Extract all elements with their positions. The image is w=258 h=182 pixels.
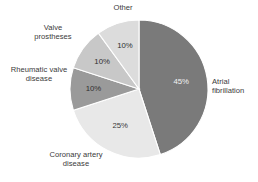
slice-value-rheumatic-valve-disease: 10% — [86, 84, 102, 93]
slice-label-other: Other — [99, 3, 147, 12]
slice-label-valve-prostheses: Valve prostheses — [26, 23, 80, 42]
slice-label-rheumatic-valve-disease: Rheumatic valve disease — [2, 65, 76, 84]
slice-value-other: 10% — [117, 41, 133, 50]
slice-value-valve-prostheses: 10% — [94, 57, 110, 66]
slice-label-atrial-fibrillation: Atrial fibrillation — [212, 77, 258, 96]
pie-chart-figure: 45% 25% 10% 10% 10% Other Valve prosthes… — [0, 0, 258, 182]
slice-value-atrial-fibrillation: 45% — [173, 77, 189, 86]
slice-label-coronary-artery-disease: Coronary artery disease — [33, 150, 119, 169]
slice-value-coronary-artery-disease: 25% — [112, 121, 128, 130]
